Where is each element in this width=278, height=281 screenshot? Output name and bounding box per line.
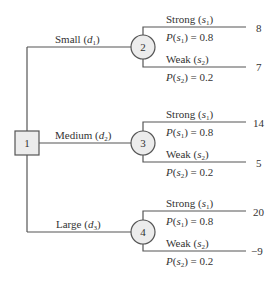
outcome-label-3-weak: Weak (s2): [166, 148, 209, 160]
decision-label-medium: Medium (d2): [55, 129, 111, 141]
outcome-label-2-strong: Strong (s1): [166, 13, 213, 25]
payoff-2-strong: 8: [256, 22, 262, 34]
probability-3-weak: P(s2) = 0.2: [166, 166, 213, 178]
decision-label-large: Large (d3): [56, 218, 101, 230]
chance-node-4-label: 4: [133, 226, 153, 238]
decision-label-small: Small (d1): [55, 33, 100, 45]
probability-2-strong: P(s1) = 0.8: [166, 31, 213, 43]
payoff-3-strong: 14: [253, 117, 264, 129]
outcome-label-4-weak: Weak (s2): [166, 237, 209, 249]
outcome-label-2-weak: Weak (s2): [166, 53, 209, 65]
payoff-3-weak: 5: [256, 157, 262, 169]
payoff-2-weak: 7: [256, 61, 262, 73]
decision-node-1-label: 1: [17, 137, 37, 149]
payoff-4-strong: 20: [253, 206, 264, 218]
outcome-label-4-strong: Strong (s1): [166, 197, 213, 209]
chance-node-3-label: 3: [133, 137, 153, 149]
probability-2-weak: P(s2) = 0.2: [166, 71, 213, 83]
outcome-label-3-strong: Strong (s1): [166, 108, 213, 120]
probability-4-weak: P(s2) = 0.2: [166, 255, 213, 267]
probability-3-strong: P(s1) = 0.8: [166, 126, 213, 138]
payoff-4-weak: −9: [251, 245, 263, 257]
chance-node-2-label: 2: [133, 41, 153, 53]
probability-4-strong: P(s1) = 0.8: [166, 215, 213, 227]
